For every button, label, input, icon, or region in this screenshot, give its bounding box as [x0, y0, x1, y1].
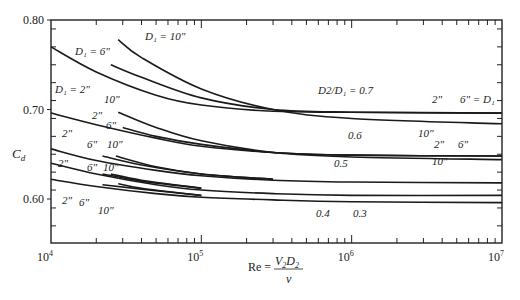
curve-label: 2" — [434, 138, 445, 150]
annotations: D₁ = 10"D₁ = 6"D₁ = 2"D2/D₁ = 0.72"6" = … — [54, 30, 495, 219]
x-tick-label: 107 — [488, 249, 504, 264]
x-tick-label: 104 — [37, 249, 53, 264]
discharge-coefficient-chart: D₁ = 10"D₁ = 6"D₁ = 2"D2/D₁ = 0.72"6" = … — [0, 0, 520, 300]
curve-label: 10" — [107, 138, 123, 150]
x-axis-label: Re = V2D2 ν — [248, 254, 303, 286]
curve-label: 6" — [458, 138, 469, 150]
y-tick-label: 0.80 — [23, 13, 44, 27]
curve-label: 6" — [79, 196, 90, 208]
curve — [111, 174, 202, 188]
curve-label: 2" — [58, 157, 69, 169]
curve-label: 10" — [104, 93, 120, 105]
curve-label: 6" — [87, 161, 98, 173]
svg-text:ν: ν — [286, 272, 292, 286]
curve-label: 6" — [87, 138, 98, 150]
curve-label: 2" — [432, 93, 443, 105]
curve — [118, 112, 502, 159]
curve-label: 10" — [103, 161, 119, 173]
plot-frame — [51, 20, 502, 243]
svg-text:V2D2: V2D2 — [275, 254, 299, 270]
curve-label: D₁ = 2" — [54, 83, 90, 95]
curve-label: 10" — [98, 204, 114, 216]
curve — [111, 65, 502, 113]
curve-label: 6" = D₁ — [460, 93, 495, 105]
curve-label: 0.3 — [353, 207, 367, 219]
curves — [51, 40, 502, 203]
curve-label: 2" — [62, 127, 73, 139]
svg-text:Re =: Re = — [248, 260, 271, 274]
curve-label: 2" — [92, 109, 103, 121]
curve — [123, 127, 502, 156]
curve-label: 10" — [432, 155, 448, 167]
curve — [51, 163, 502, 195]
curve-label: D₁ = 10" — [144, 30, 186, 42]
curve-label: 0.6 — [348, 129, 362, 141]
curve-label: 0.5 — [334, 157, 348, 169]
curve-label: 10" — [418, 127, 434, 139]
y-axis-label: Cd — [12, 146, 26, 163]
curve-label: D2/D₁ = 0.7 — [317, 84, 373, 96]
curve-label: 0.4 — [316, 207, 330, 219]
curve-label: 6" — [106, 119, 117, 131]
axis-ticks — [51, 20, 502, 243]
curve-label: 2" — [62, 194, 73, 206]
curve-label: D₁ = 6" — [74, 45, 110, 57]
x-tick-label: 106 — [338, 249, 354, 264]
x-tick-label: 105 — [187, 249, 203, 264]
y-tick-labels: 0.800.700.60 — [23, 13, 51, 206]
y-tick-label: 0.70 — [23, 103, 44, 117]
y-tick-label: 0.60 — [23, 192, 44, 206]
